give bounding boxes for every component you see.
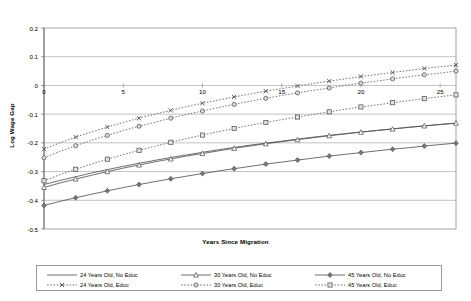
x-tick-label: 25 — [430, 88, 450, 95]
data-point-marker — [74, 167, 78, 171]
data-point-marker — [295, 91, 299, 95]
legend-label: 30 Years Old, No Educ — [214, 272, 272, 278]
legend-key-square — [313, 280, 347, 290]
y-tick-label: -0.3 — [12, 168, 38, 175]
data-point-marker — [422, 97, 426, 101]
data-point-marker — [137, 124, 141, 128]
legend-label: 45 Years Old, No Educ — [348, 272, 406, 278]
data-point-marker — [328, 283, 332, 287]
x-tick-label: 10 — [192, 88, 212, 95]
y-tick-label: -0.5 — [12, 226, 38, 233]
x-tick-label: 20 — [351, 88, 371, 95]
data-point-marker — [42, 156, 46, 160]
data-point-marker — [264, 96, 268, 100]
data-point-marker — [422, 73, 426, 77]
data-point-marker — [328, 273, 333, 278]
chart-plot-area — [0, 0, 471, 301]
data-point-marker — [359, 81, 363, 85]
data-point-marker — [391, 101, 395, 105]
data-point-marker — [137, 148, 141, 152]
legend-key-x — [45, 280, 79, 290]
x-axis-title: Years Since Migration — [0, 238, 471, 245]
chart-container: Log Wage Gap Years Since Migration 0.20.… — [0, 0, 471, 301]
y-tick-label: -0.2 — [12, 139, 38, 146]
x-tick-label: 0 — [34, 88, 54, 95]
legend-entry: 45 Years Old, Educ — [313, 279, 397, 291]
data-point-marker — [232, 102, 236, 106]
data-point-marker — [327, 86, 331, 90]
data-point-marker — [169, 140, 173, 144]
data-point-marker — [194, 283, 198, 287]
y-tick-label: -0.4 — [12, 197, 38, 204]
y-axis-title: Log Wage Gap — [8, 91, 15, 161]
data-point-marker — [200, 109, 204, 113]
y-tick-label: 0.2 — [12, 25, 38, 32]
y-tick-label: -0.1 — [12, 111, 38, 118]
data-point-marker — [200, 133, 204, 137]
data-point-marker — [105, 133, 109, 137]
data-point-marker — [359, 105, 363, 109]
legend-label: 24 Years Old, No Educ — [80, 272, 138, 278]
data-point-marker — [391, 77, 395, 81]
x-tick-label: 15 — [272, 88, 292, 95]
data-point-marker — [105, 157, 109, 161]
data-point-marker — [295, 115, 299, 119]
data-point-marker — [454, 69, 458, 73]
legend-label: 24 Years Old, Educ — [80, 282, 129, 288]
legend-entry: 30 Years Old, Educ — [179, 279, 263, 291]
data-point-marker — [232, 126, 236, 130]
data-point-marker — [42, 179, 46, 183]
chart-legend: 24 Years Old, No Educ30 Years Old, No Ed… — [36, 265, 442, 291]
y-tick-label: 0.1 — [12, 53, 38, 60]
data-point-marker — [74, 144, 78, 148]
data-point-marker — [169, 116, 173, 120]
legend-label: 45 Years Old, Educ — [348, 282, 397, 288]
legend-label: 30 Years Old, Educ — [214, 282, 263, 288]
data-point-marker — [454, 93, 458, 97]
x-tick-label: 5 — [113, 88, 133, 95]
legend-key-circle — [179, 280, 213, 290]
data-point-marker — [264, 120, 268, 124]
data-point-marker — [327, 110, 331, 114]
legend-entry: 24 Years Old, Educ — [45, 279, 129, 291]
